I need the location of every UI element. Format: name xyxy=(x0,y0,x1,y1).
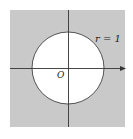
radius-label: r = 1 xyxy=(95,33,121,44)
origin-label: O xyxy=(57,70,65,80)
unit-circle-diagram: r = 1 O xyxy=(0,0,133,139)
unit-circle xyxy=(32,32,104,104)
